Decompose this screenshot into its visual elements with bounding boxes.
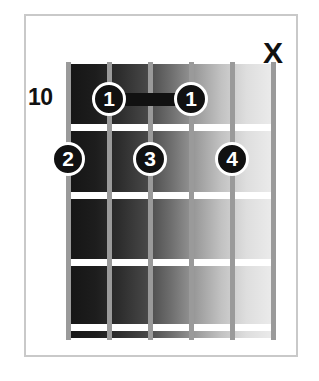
finger-marker-4: 4: [215, 142, 249, 176]
string-1: [66, 62, 71, 340]
mute-marker-string-6: X: [263, 38, 283, 68]
string-5: [230, 62, 235, 340]
finger-marker-3: 3: [133, 142, 167, 176]
chord-diagram: 1 1 2 3 4 10 X: [0, 0, 319, 381]
string-6: [271, 62, 276, 340]
finger-marker-1a: 1: [92, 82, 126, 116]
fret-line-4: [66, 324, 276, 331]
finger-marker-1b: 1: [174, 82, 208, 116]
fret-line-2: [66, 192, 276, 199]
fret-line-1: [66, 124, 276, 131]
finger-marker-2: 2: [51, 142, 85, 176]
fret-line-3: [66, 259, 276, 266]
fret-position-label: 10: [28, 84, 53, 111]
